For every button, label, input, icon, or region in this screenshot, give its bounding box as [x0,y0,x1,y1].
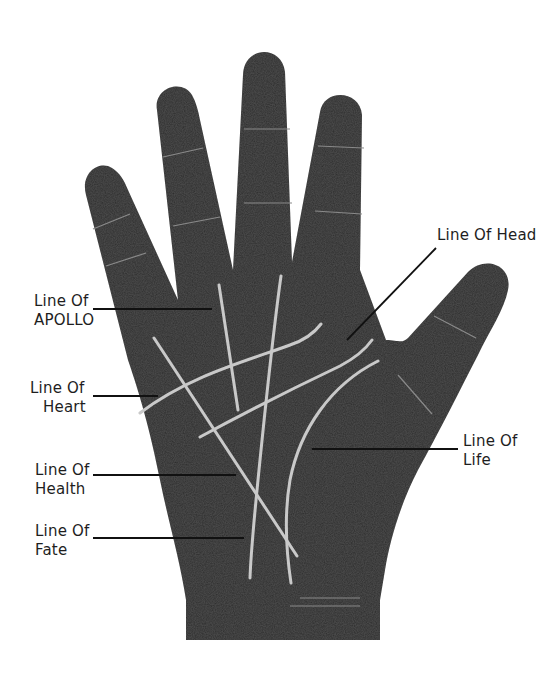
label-line-of-heart: Line Of Heart [30,379,86,417]
label-line-of-life: Line Of Life [463,432,518,470]
label-text: Line Of [463,432,518,451]
label-text: Line Of [35,522,90,541]
hand-illustration [0,0,538,675]
label-text: Fate [35,541,90,560]
label-text: Life [463,451,518,470]
label-text: Line Of [34,292,94,311]
label-line-of-fate: Line Of Fate [35,522,90,560]
hand-silhouette [85,52,509,640]
label-line-of-health: Line Of Health [35,461,90,499]
label-text: Line Of Head [437,226,537,245]
palm-diagram: Line Of APOLLO Line Of Heart Line Of Hea… [0,0,538,675]
label-line-of-head: Line Of Head [437,226,537,245]
label-text: Heart [30,398,86,417]
label-text: Line Of [35,461,90,480]
label-line-of-apollo: Line Of APOLLO [34,292,94,330]
label-text: Health [35,480,90,499]
label-text: APOLLO [34,311,94,330]
label-text: Line Of [30,379,86,398]
